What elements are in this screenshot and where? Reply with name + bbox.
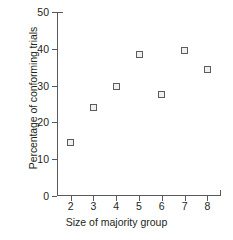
data-point bbox=[204, 66, 211, 73]
data-point bbox=[113, 83, 120, 90]
x-tick-label-7: 7 bbox=[173, 201, 197, 211]
data-point bbox=[90, 104, 97, 111]
x-tick-label-4: 4 bbox=[104, 201, 128, 211]
y-tick-30 bbox=[52, 86, 57, 87]
x-tick-label-8: 8 bbox=[195, 201, 219, 211]
plot-area: 01020304050 2345678 bbox=[57, 12, 221, 196]
y-tick-40 bbox=[52, 49, 57, 50]
data-point bbox=[67, 139, 74, 146]
y-tick-label-50: 50 bbox=[5, 7, 49, 17]
y-tick-label-20: 20 bbox=[5, 117, 49, 127]
x-axis-title: Size of majority group bbox=[0, 216, 233, 228]
x-axis-right-cap bbox=[220, 190, 221, 195]
y-tick-50 bbox=[52, 12, 57, 13]
data-point bbox=[181, 47, 188, 54]
y-axis-top-cap bbox=[58, 12, 63, 13]
y-tick-label-10: 10 bbox=[5, 154, 49, 164]
x-tick-label-3: 3 bbox=[81, 201, 105, 211]
y-axis-line bbox=[57, 12, 58, 196]
y-tick-label-0: 0 bbox=[5, 191, 49, 201]
y-tick-10 bbox=[52, 159, 57, 160]
y-tick-label-40: 40 bbox=[5, 44, 49, 54]
y-tick-label-30: 30 bbox=[5, 81, 49, 91]
y-tick-0 bbox=[52, 196, 57, 197]
y-tick-20 bbox=[52, 122, 57, 123]
scatter-chart: Percentage of conforming trials 01020304… bbox=[0, 0, 233, 240]
data-point bbox=[136, 51, 143, 58]
data-point bbox=[158, 91, 165, 98]
x-tick-label-2: 2 bbox=[59, 201, 83, 211]
x-tick-label-5: 5 bbox=[127, 201, 151, 211]
x-tick-label-6: 6 bbox=[150, 201, 174, 211]
